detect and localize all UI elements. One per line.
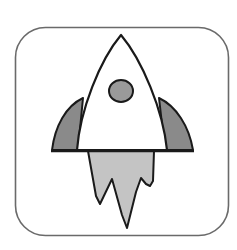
rocket-app-icon: Rocket (0, 0, 237, 250)
porthole-icon (109, 80, 133, 102)
